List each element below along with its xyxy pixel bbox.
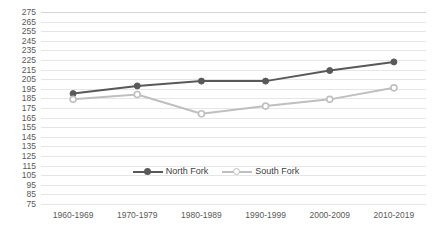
x-tick-label: 1980-1989 [181, 210, 222, 220]
series-line [73, 88, 394, 114]
line-chart: 2752652552452352252152051951851751651551… [0, 0, 432, 238]
data-point [391, 59, 397, 65]
y-tick-label: 225 [0, 56, 36, 64]
y-tick-label: 105 [0, 171, 36, 179]
y-tick-label: 275 [0, 8, 36, 16]
data-point [70, 96, 76, 102]
data-point [134, 83, 140, 89]
x-tick-label: 2000-2009 [309, 210, 350, 220]
y-tick-label: 205 [0, 75, 36, 83]
y-tick-label: 235 [0, 46, 36, 54]
gridline [41, 204, 426, 205]
series-line [73, 62, 394, 94]
y-tick-label: 175 [0, 104, 36, 112]
data-point [263, 78, 269, 84]
data-point [198, 78, 204, 84]
y-tick-label: 145 [0, 133, 36, 141]
y-tick-label: 155 [0, 123, 36, 131]
y-tick-label: 255 [0, 27, 36, 35]
y-tick-label: 95 [0, 181, 36, 189]
data-point [327, 68, 333, 74]
plot-area [41, 12, 426, 204]
y-axis: 2752652552452352252152051951851751651551… [0, 12, 36, 204]
x-tick-label: 1990-1999 [245, 210, 286, 220]
data-point [263, 103, 269, 109]
series-lines [41, 12, 426, 204]
data-point [391, 85, 397, 91]
y-tick-label: 245 [0, 37, 36, 45]
data-point [134, 92, 140, 98]
x-tick-label: 2010-2019 [374, 210, 415, 220]
y-tick-label: 75 [0, 200, 36, 208]
y-tick-label: 135 [0, 142, 36, 150]
y-tick-label: 165 [0, 114, 36, 122]
x-tick-label: 1960-1969 [53, 210, 94, 220]
y-tick-label: 265 [0, 18, 36, 26]
y-tick-label: 215 [0, 66, 36, 74]
x-axis: 1960-19691970-19791980-19891990-19992000… [41, 210, 426, 226]
y-tick-label: 195 [0, 85, 36, 93]
x-tick-label: 1970-1979 [117, 210, 158, 220]
y-tick-label: 125 [0, 152, 36, 160]
data-point [327, 96, 333, 102]
y-tick-label: 115 [0, 162, 36, 170]
chart-title [0, 0, 432, 6]
y-tick-label: 185 [0, 94, 36, 102]
y-tick-label: 85 [0, 190, 36, 198]
data-point [198, 111, 204, 117]
